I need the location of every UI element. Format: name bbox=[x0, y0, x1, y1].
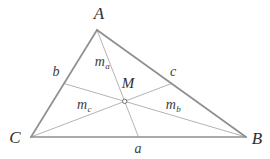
side-label-a: a bbox=[135, 142, 142, 156]
side-ab-line bbox=[97, 30, 246, 137]
median-mc-subscript: c bbox=[88, 104, 92, 114]
side-label-b: b bbox=[53, 65, 60, 79]
median-mc-base: m bbox=[77, 97, 87, 112]
vertex-label-c: C bbox=[9, 129, 20, 146]
median-ma-subscript: a bbox=[105, 61, 110, 71]
side-label-c: c bbox=[170, 65, 176, 79]
side-ac-line bbox=[31, 30, 97, 137]
vertex-label-a: A bbox=[94, 5, 104, 22]
median-label-ma: ma bbox=[95, 55, 110, 69]
median-mc-line bbox=[31, 84, 172, 138]
centroid-label-m: M bbox=[122, 76, 135, 91]
triangle-svg bbox=[0, 0, 270, 159]
vertex-label-b: B bbox=[252, 130, 262, 147]
geometry-figure: A B C M a b c ma mb mc bbox=[0, 0, 270, 159]
median-label-mb: mb bbox=[166, 98, 181, 112]
median-ma-base: m bbox=[95, 54, 105, 69]
median-mb-subscript: b bbox=[176, 104, 181, 114]
median-label-mc: mc bbox=[77, 98, 91, 112]
median-mb-base: m bbox=[166, 97, 176, 112]
centroid-marker bbox=[123, 99, 127, 103]
